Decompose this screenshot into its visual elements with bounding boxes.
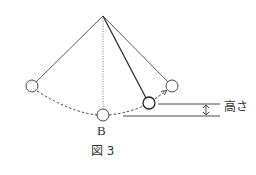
pendulum-diagram: [0, 0, 256, 175]
point-label-b: B: [97, 124, 106, 137]
string-current: [103, 16, 146, 98]
swing-arc-dashed: [37, 91, 97, 115]
figure-caption: 図 3: [91, 145, 114, 157]
swing-arc-arrow: [155, 91, 166, 99]
ball-bottom-b: [97, 109, 109, 121]
swing-arc-dashed-right: [109, 106, 143, 115]
height-double-arrow-icon: [203, 105, 209, 115]
ball-right: [166, 80, 178, 92]
ball-current: [143, 97, 155, 109]
string-right: [103, 16, 168, 82]
height-label: 高さ: [224, 101, 248, 113]
string-left: [36, 16, 103, 82]
ball-left: [26, 80, 38, 92]
